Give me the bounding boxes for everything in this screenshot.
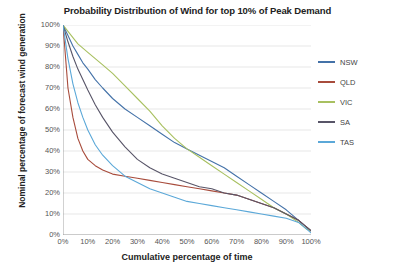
y-tick-label: 90%	[26, 41, 60, 50]
legend-swatch-icon	[318, 141, 335, 143]
series-line-sa	[63, 25, 311, 231]
y-axis-tick-labels: 0%10%20%30%40%50%60%70%80%90%100%	[22, 25, 60, 235]
y-tick-label: 50%	[26, 125, 60, 134]
legend-label: VIC	[340, 98, 353, 107]
x-axis-title: Cumulative percentage of time	[63, 252, 311, 262]
series-line-vic	[63, 25, 311, 231]
plot-svg	[63, 25, 311, 235]
y-tick-label: 20%	[26, 188, 60, 197]
legend-label: QLD	[340, 78, 355, 87]
y-tick-label: 70%	[26, 83, 60, 92]
series-line-nsw	[63, 25, 311, 231]
legend-item-qld[interactable]: QLD	[318, 72, 378, 92]
series-line-qld	[63, 25, 311, 231]
y-tick-label: 10%	[26, 209, 60, 218]
legend-swatch-icon	[318, 81, 335, 83]
legend-item-vic[interactable]: VIC	[318, 92, 378, 112]
y-tick-label: 40%	[26, 146, 60, 155]
y-tick-label: 80%	[26, 62, 60, 71]
legend-label: SA	[340, 118, 350, 127]
legend-swatch-icon	[318, 121, 335, 123]
y-tick-label: 100%	[26, 20, 60, 29]
chart-title: Probability Distribution of Wind for top…	[0, 5, 395, 16]
wind-probability-chart: Probability Distribution of Wind for top…	[0, 0, 395, 274]
legend-label: TAS	[340, 138, 354, 147]
legend-label: NSW	[340, 58, 358, 67]
legend-item-nsw[interactable]: NSW	[318, 52, 378, 72]
x-axis-tick-labels: 0%10%20%30%40%50%60%70%80%90%100%	[63, 237, 311, 251]
legend-item-tas[interactable]: TAS	[318, 132, 378, 152]
y-tick-label: 30%	[26, 167, 60, 176]
y-tick-label: 60%	[26, 104, 60, 113]
legend-swatch-icon	[318, 61, 335, 63]
legend-item-sa[interactable]: SA	[318, 112, 378, 132]
x-tick-label: 100%	[296, 237, 326, 246]
chart-legend: NSWQLDVICSATAS	[318, 52, 378, 152]
legend-swatch-icon	[318, 101, 335, 103]
plot-area	[63, 25, 311, 235]
